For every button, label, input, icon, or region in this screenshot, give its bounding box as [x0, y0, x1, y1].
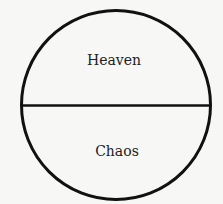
chaos-label: Chaos: [95, 143, 139, 159]
heaven-label: Heaven: [87, 52, 141, 68]
divided-circle-diagram: Heaven Chaos: [0, 0, 223, 204]
